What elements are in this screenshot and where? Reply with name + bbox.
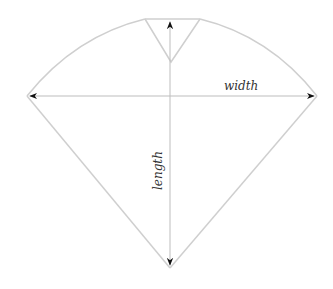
length-label: length <box>151 151 165 190</box>
v-notch <box>145 19 200 62</box>
left-arc <box>27 19 145 96</box>
width-label: width <box>224 79 258 93</box>
pattern-diagram: width length <box>0 0 333 289</box>
left-side <box>27 96 170 268</box>
right-side <box>170 96 317 268</box>
pattern-outline <box>27 19 317 268</box>
right-arc <box>200 19 317 96</box>
